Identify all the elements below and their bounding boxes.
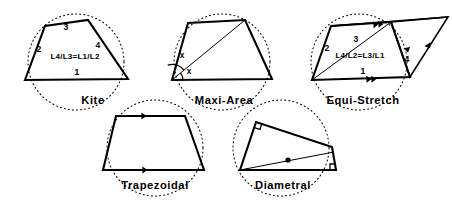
equi-stretch-single-tick-1 bbox=[403, 47, 411, 54]
quadrilateral-figure: 1234L4/L3=L1/L2KitexxMaxi-Area1234L4/L2=… bbox=[0, 0, 452, 223]
trapezoidal-single-tick-1 bbox=[141, 113, 146, 120]
diametral-caption: Diametral bbox=[255, 179, 311, 191]
shape-equi-stretch: 1234L4/L2=L3/L1Equi-Stretch bbox=[311, 14, 448, 110]
kite-edge-label-1: 1 bbox=[75, 67, 80, 77]
maxi-area-angle-label-2: x bbox=[187, 66, 192, 76]
trapezoidal-single-tick-1-glyph bbox=[141, 113, 146, 120]
diametral-center-dot bbox=[285, 157, 290, 162]
trapezoidal-single-tick-2-glyph bbox=[142, 167, 147, 174]
shape-trapezoidal: Trapezoidal bbox=[103, 100, 204, 196]
trapezoidal-caption: Trapezoidal bbox=[121, 179, 189, 191]
equi-stretch-ratio-label: L4/L2=L3/L1 bbox=[335, 51, 385, 60]
kite-caption: Kite bbox=[81, 94, 104, 106]
shape-kite: 1234L4/L3=L1/L2Kite bbox=[25, 14, 128, 110]
equi-stretch-edge-label-1: 1 bbox=[361, 66, 366, 76]
maxi-area-caption: Maxi-Area bbox=[195, 94, 254, 106]
maxi-area-angle-arc-2 bbox=[180, 73, 183, 80]
equi-stretch-caption: Equi-Stretch bbox=[326, 94, 399, 106]
equi-stretch-edge-label-2: 2 bbox=[325, 43, 330, 53]
kite-edge-label-4: 4 bbox=[96, 40, 101, 50]
equi-stretch-double-tick-2a-glyph bbox=[366, 76, 371, 83]
equi-stretch-edge-label-4: 4 bbox=[405, 54, 410, 64]
equi-stretch-single-tick-1-glyph bbox=[403, 47, 411, 54]
equi-stretch-edge-label-3: 3 bbox=[354, 34, 359, 44]
kite-guide-circle bbox=[28, 14, 124, 110]
kite-edge-label-3: 3 bbox=[64, 22, 69, 32]
equi-stretch-double-tick-2b-glyph bbox=[371, 76, 376, 83]
shape-maxi-area: xxMaxi-Area bbox=[168, 14, 272, 110]
trapezoidal-single-tick-2 bbox=[142, 167, 147, 174]
figure-canvas: 1234L4/L3=L1/L2KitexxMaxi-Area1234L4/L2=… bbox=[0, 0, 452, 223]
kite-ratio-label: L4/L3=L1/L2 bbox=[50, 52, 100, 61]
diametral-polygon bbox=[240, 122, 336, 170]
shapes-group: 1234L4/L3=L1/L2KitexxMaxi-Area1234L4/L2=… bbox=[25, 14, 448, 196]
trapezoidal-polygon bbox=[103, 116, 204, 170]
maxi-area-angle-label-1: x bbox=[180, 50, 185, 60]
shape-diametral: Diametral bbox=[233, 100, 336, 196]
equi-stretch-double-tick-2b bbox=[371, 76, 376, 83]
equi-stretch-double-tick-2a bbox=[366, 76, 371, 83]
kite-edge-label-2: 2 bbox=[37, 44, 42, 54]
